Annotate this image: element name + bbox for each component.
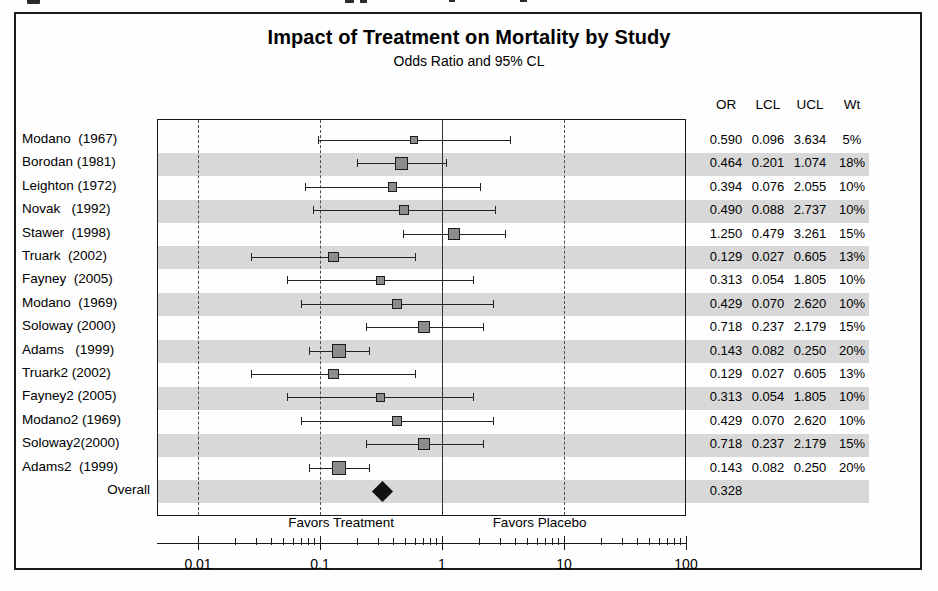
plot-frame — [157, 119, 686, 516]
cell-or: 0.394 — [703, 179, 749, 194]
cell-ucl: 0.250 — [787, 460, 833, 475]
study-effect-box — [376, 276, 386, 286]
cell-lcl: 0.096 — [745, 132, 791, 147]
study-label: Adams2 (1999) — [22, 459, 150, 474]
top-text-fragment — [360, 0, 367, 3]
study-effect-box — [388, 182, 398, 192]
ci-cap-lower — [301, 300, 302, 308]
cell-wt: 10% — [829, 389, 875, 404]
ci-cap-lower — [305, 183, 306, 191]
study-effect-box — [328, 252, 339, 263]
ci-cap-upper — [473, 393, 474, 401]
gridline-10 — [564, 120, 565, 515]
study-label: Borodan (1981) — [22, 154, 150, 169]
cell-ucl: 2.620 — [787, 413, 833, 428]
cell-ucl: 2.737 — [787, 202, 833, 217]
study-effect-box — [332, 461, 346, 475]
study-label: Modano2 (1969) — [22, 412, 150, 427]
cell-wt: 18% — [829, 155, 875, 170]
cell-ucl: 0.605 — [787, 249, 833, 264]
ci-cap-lower — [251, 253, 252, 261]
ci-cap-upper — [493, 300, 494, 308]
cell-wt: 10% — [829, 272, 875, 287]
cell-lcl: 0.070 — [745, 296, 791, 311]
cell-or: 0.313 — [703, 389, 749, 404]
study-effect-box — [376, 393, 386, 403]
ci-cap-upper — [480, 183, 481, 191]
cell-lcl: 0.201 — [745, 155, 791, 170]
top-text-fragment — [345, 0, 354, 3]
cell-lcl: 0.237 — [745, 319, 791, 334]
study-label: Modano (1967) — [22, 131, 150, 146]
cell-lcl: 0.479 — [745, 226, 791, 241]
ci-cap-upper — [446, 159, 447, 167]
ci-cap-lower — [318, 136, 319, 144]
ci-cap-upper — [510, 136, 511, 144]
cell-lcl: 0.070 — [745, 413, 791, 428]
cell-lcl: 0.027 — [745, 249, 791, 264]
cell-wt: 20% — [829, 343, 875, 358]
cell-or: 0.490 — [703, 202, 749, 217]
ci-cap-upper — [415, 370, 416, 378]
study-label: Fayney (2005) — [22, 271, 150, 286]
study-label: Truark (2002) — [22, 248, 150, 263]
chart-title: Impact of Treatment on Mortality by Stud… — [0, 26, 938, 49]
study-label: Novak (1992) — [22, 201, 150, 216]
axis-tick-label: 10 — [541, 556, 587, 572]
cell-or: 0.718 — [703, 436, 749, 451]
cell-or: 0.464 — [703, 155, 749, 170]
cell-ucl: 0.250 — [787, 343, 833, 358]
cell-or: 0.590 — [703, 132, 749, 147]
study-label: Fayney2 (2005) — [22, 388, 150, 403]
study-label: Adams (1999) — [22, 342, 150, 357]
study-label: Soloway (2000) — [22, 318, 150, 333]
study-effect-box — [399, 205, 409, 215]
chart-subtitle: Odds Ratio and 95% CL — [0, 53, 938, 69]
cell-lcl: 0.082 — [745, 460, 791, 475]
cell-ucl: 1.805 — [787, 389, 833, 404]
top-text-fragment — [27, 0, 40, 4]
cell-wt: 5% — [829, 132, 875, 147]
cell-or: 1.250 — [703, 226, 749, 241]
axis-tick-label: 0.1 — [297, 556, 343, 572]
cell-ucl: 2.620 — [787, 296, 833, 311]
cell-or: 0.143 — [703, 460, 749, 475]
cell-ucl: 3.634 — [787, 132, 833, 147]
study-label: Modano (1969) — [22, 295, 150, 310]
cell-wt: 20% — [829, 460, 875, 475]
axis-tick-label: 100 — [663, 556, 709, 572]
cell-or: 0.129 — [703, 249, 749, 264]
column-header-wt: Wt — [829, 97, 875, 112]
study-label: Stawer (1998) — [22, 225, 150, 240]
ci-cap-lower — [309, 347, 310, 355]
axis-tick-label: 1 — [419, 556, 465, 572]
ci-cap-upper — [493, 417, 494, 425]
ci-cap-upper — [369, 464, 370, 472]
ci-cap-upper — [415, 253, 416, 261]
ci-cap-lower — [287, 393, 288, 401]
top-text-fragment — [520, 0, 527, 2]
cell-wt: 10% — [829, 202, 875, 217]
cell-or: 0.429 — [703, 413, 749, 428]
cell-ucl: 3.261 — [787, 226, 833, 241]
cell-or: 0.718 — [703, 319, 749, 334]
cell-wt: 15% — [829, 436, 875, 451]
cell-ucl: 2.055 — [787, 179, 833, 194]
gridline-0.01 — [198, 120, 199, 515]
cell-or: 0.313 — [703, 272, 749, 287]
cell-or: 0.429 — [703, 296, 749, 311]
ci-cap-lower — [251, 370, 252, 378]
cell-wt: 15% — [829, 319, 875, 334]
study-effect-box — [328, 369, 339, 380]
study-label: Truark2 (2002) — [22, 365, 150, 380]
cell-ucl: 1.805 — [787, 272, 833, 287]
overall-label: Overall — [22, 482, 150, 497]
cell-lcl: 0.027 — [745, 366, 791, 381]
cell-wt: 10% — [829, 413, 875, 428]
cell-lcl: 0.054 — [745, 272, 791, 287]
cell-or-overall: 0.328 — [703, 483, 749, 498]
ci-cap-upper — [369, 347, 370, 355]
axis-tick-label: 0.01 — [175, 556, 221, 572]
study-effect-box — [395, 157, 408, 170]
cell-lcl: 0.054 — [745, 389, 791, 404]
